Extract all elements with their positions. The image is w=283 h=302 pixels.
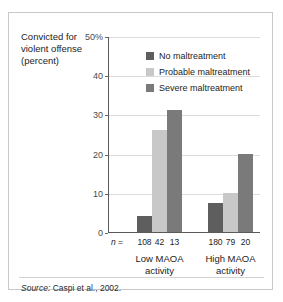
y-axis-tick-mark bbox=[105, 155, 108, 156]
legend-label: No maltreatment bbox=[159, 51, 226, 61]
legend-item: Severe maltreatment bbox=[146, 83, 250, 93]
legend-swatch-icon bbox=[146, 68, 154, 76]
legend-label: Probable maltreatment bbox=[159, 67, 250, 77]
sample-size-value: 42 bbox=[152, 237, 167, 247]
figure-panel: Convicted for violent offense (percent) … bbox=[8, 12, 273, 290]
bar bbox=[137, 216, 152, 232]
category-label: Low MAOAactivity bbox=[120, 253, 200, 276]
y-axis-tick-mark bbox=[105, 76, 108, 77]
sample-size-n-symbol: n bbox=[111, 237, 116, 247]
sample-size-value: 20 bbox=[238, 237, 253, 247]
sample-size-group: 1084213 bbox=[137, 237, 182, 247]
legend-swatch-icon bbox=[146, 52, 154, 60]
y-axis-tick-label: 10 bbox=[93, 189, 103, 199]
category-label-line: Low MAOA bbox=[120, 253, 200, 265]
y-axis-title-line-3: (percent) bbox=[21, 55, 103, 67]
y-axis-tick-label: 0 bbox=[98, 228, 103, 238]
y-axis-tick-mark bbox=[105, 233, 108, 234]
legend-item: No maltreatment bbox=[146, 51, 250, 61]
category-label: High MAOAactivity bbox=[191, 253, 271, 276]
source-divider bbox=[19, 277, 264, 278]
sample-size-value: 79 bbox=[223, 237, 238, 247]
category-label-line: High MAOA bbox=[191, 253, 271, 265]
sample-size-value: 13 bbox=[167, 237, 182, 247]
sample-size-group: 1807920 bbox=[208, 237, 253, 247]
y-axis-tick-mark bbox=[105, 194, 108, 195]
legend-item: Probable maltreatment bbox=[146, 67, 250, 77]
y-axis-line bbox=[108, 37, 109, 233]
y-axis-title-line-2: violent offense bbox=[21, 43, 103, 55]
legend-swatch-icon bbox=[146, 84, 154, 92]
source-note: Source: Caspi et al., 2002. bbox=[21, 283, 121, 293]
legend-label: Severe maltreatment bbox=[159, 83, 243, 93]
category-label-line: activity bbox=[120, 265, 200, 277]
bar bbox=[223, 193, 238, 232]
y-axis-tick-label: 20 bbox=[93, 150, 103, 160]
y-axis-tick-mark bbox=[105, 37, 108, 38]
sample-size-value: 108 bbox=[137, 237, 152, 247]
legend: No maltreatmentProbable maltreatmentSeve… bbox=[146, 51, 250, 93]
y-axis-tick-label: 40 bbox=[93, 71, 103, 81]
y-axis-tick-label: 30 bbox=[93, 110, 103, 120]
source-citation: Caspi et al., 2002. bbox=[53, 283, 122, 293]
y-axis-tick-label: 50% bbox=[85, 32, 103, 42]
bar bbox=[167, 110, 182, 232]
bar bbox=[152, 130, 167, 232]
gridline bbox=[109, 37, 260, 38]
gridline bbox=[109, 115, 260, 116]
bar bbox=[208, 203, 223, 232]
bar bbox=[238, 154, 253, 232]
sample-size-value: 180 bbox=[208, 237, 223, 247]
sample-size-prefix: n = bbox=[111, 237, 123, 247]
y-axis-tick-mark bbox=[105, 115, 108, 116]
category-label-line: activity bbox=[191, 265, 271, 277]
source-label: Source: bbox=[21, 283, 50, 293]
sample-size-row: n = 10842131807920 bbox=[108, 237, 260, 249]
